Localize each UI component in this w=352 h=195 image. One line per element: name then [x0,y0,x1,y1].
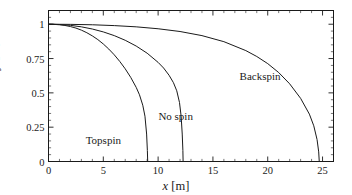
series-label-backspin: Backspin [240,70,281,82]
y-axis-unit: [m] [0,42,1,60]
y-axis-variable: y [0,64,1,70]
y-tick-label: 0.25 [26,122,44,133]
x-tick-label: 0 [46,165,51,176]
y-tick-label: 0.75 [26,53,44,64]
x-axis-unit: [m] [171,179,189,193]
x-tick-label: 25 [317,165,328,176]
chart-figure: 0510152025 00.250.50.751 TopspinNo spinB… [0,0,352,195]
series-label-no-spin: No spin [158,110,193,122]
y-tick-label: 0 [39,156,44,167]
y-axis-title: y [m] [0,0,2,112]
x-axis-title: x [m] [0,179,352,194]
y-tick-label: 0.5 [31,87,44,98]
x-tick-label: 10 [153,165,164,176]
series-label-topspin: Topspin [86,134,121,146]
x-tick-label: 15 [208,165,219,176]
y-tick-label: 1 [39,19,44,30]
trajectory-plot [0,0,352,195]
x-tick-label: 20 [262,165,273,176]
x-tick-label: 5 [101,165,106,176]
